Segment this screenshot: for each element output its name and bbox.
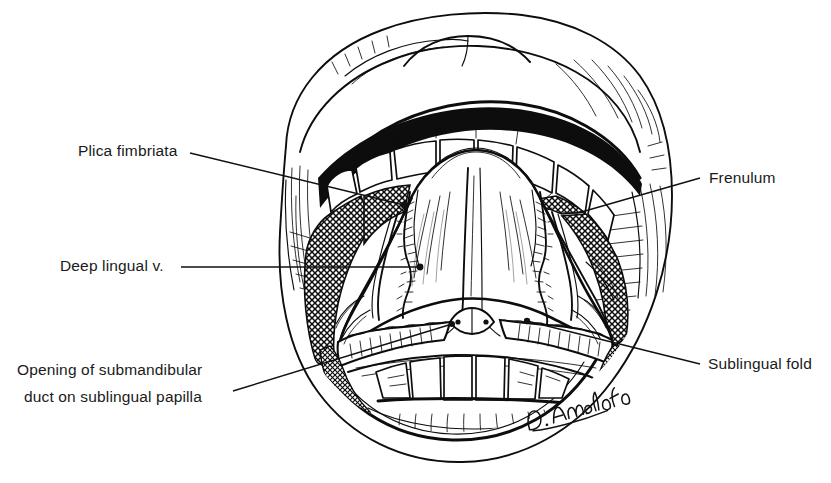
anatomy-figure: Plica fimbriata Deep lingual v. Opening … bbox=[0, 0, 831, 483]
submandibular-duct-opening-right bbox=[483, 319, 488, 324]
submandibular-duct-opening-left bbox=[455, 319, 460, 324]
label-sublingual-fold: Sublingual fold bbox=[708, 355, 812, 372]
label-deep-lingual-vein: Deep lingual v. bbox=[60, 257, 164, 274]
label-submandibular-duct-line1: Opening of submandibular bbox=[17, 361, 202, 378]
label-frenulum: Frenulum bbox=[709, 169, 776, 186]
anatomy-illustration-canvas: Plica fimbriata Deep lingual v. Opening … bbox=[0, 0, 831, 483]
label-plica-fimbriata: Plica fimbriata bbox=[78, 142, 178, 159]
label-submandibular-duct-line2: duct on sublingual papilla bbox=[24, 388, 202, 405]
